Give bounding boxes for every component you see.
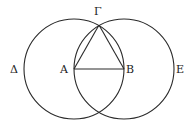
- segment-B-Gamma: [99, 25, 124, 69]
- label-epsilon: E: [176, 63, 184, 76]
- segment-A-Gamma: [74, 25, 99, 69]
- label-delta: Δ: [10, 63, 18, 76]
- label-beta: B: [126, 63, 134, 76]
- label-alpha: A: [59, 63, 69, 76]
- label-gamma: Γ: [94, 5, 102, 18]
- euclid-diagram: Γ A B Δ E: [0, 0, 194, 130]
